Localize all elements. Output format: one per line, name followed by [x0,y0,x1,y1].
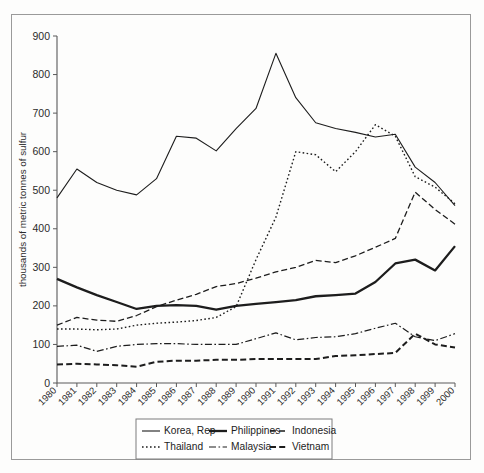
x-tick-label: 1982 [75,385,98,408]
legend-label-philippines: Philippines [231,425,280,436]
series-line-thailand [57,125,455,330]
chart-figure: 0100200300400500600700800900thousands of… [0,0,484,473]
axis-lines [57,36,455,383]
legend-label-thailand: Thailand [164,441,203,452]
x-tick-label: 1995 [334,385,357,408]
x-tick-label: 1991 [255,385,278,408]
x-tick-label: 1983 [95,385,118,408]
line-chart: 0100200300400500600700800900thousands of… [0,0,484,473]
y-tick-label: 100 [32,338,50,350]
x-tick-label: 1980 [36,385,59,408]
y-tick-label: 600 [32,145,50,157]
y-tick-label: 800 [32,68,50,80]
x-tick-label: 1998 [394,385,417,408]
series-line-vietnam [57,334,455,367]
series-line-malaysia [57,323,455,351]
x-tick-label: 1985 [135,385,158,408]
x-tick-label: 2000 [434,385,457,408]
x-tick-label: 1981 [56,385,79,408]
legend-label-korea-rep: Korea, Rep [164,425,216,436]
y-tick-label: 400 [32,222,50,234]
y-tick-label: 500 [32,184,50,196]
x-tick-label: 1999 [414,385,437,408]
y-tick-label: 200 [32,299,50,311]
x-tick-label: 1989 [215,385,238,408]
series-line-indonesia [57,192,455,325]
y-tick-label: 700 [32,107,50,119]
x-tick-label: 1988 [195,385,218,408]
x-tick-label: 1996 [354,385,377,408]
y-tick-label: 900 [32,30,50,42]
legend-label-indonesia: Indonesia [292,425,337,436]
x-tick-label: 1997 [374,385,397,408]
x-tick-label: 1994 [314,385,337,408]
series-line-korea-rep [57,53,455,205]
legend-label-malaysia: Malaysia [231,441,272,452]
legend-label-vietnam: Vietnam [292,441,329,452]
x-tick-label: 1992 [274,385,297,408]
x-tick-label: 1993 [294,385,317,408]
x-tick-label: 1990 [235,385,258,408]
x-tick-label: 1986 [155,385,178,408]
y-tick-label: 300 [32,261,50,273]
x-tick-label: 1987 [175,385,198,408]
y-axis-title: thousands of metric tonnes of sulfur [17,131,28,287]
x-tick-label: 1984 [115,385,138,408]
